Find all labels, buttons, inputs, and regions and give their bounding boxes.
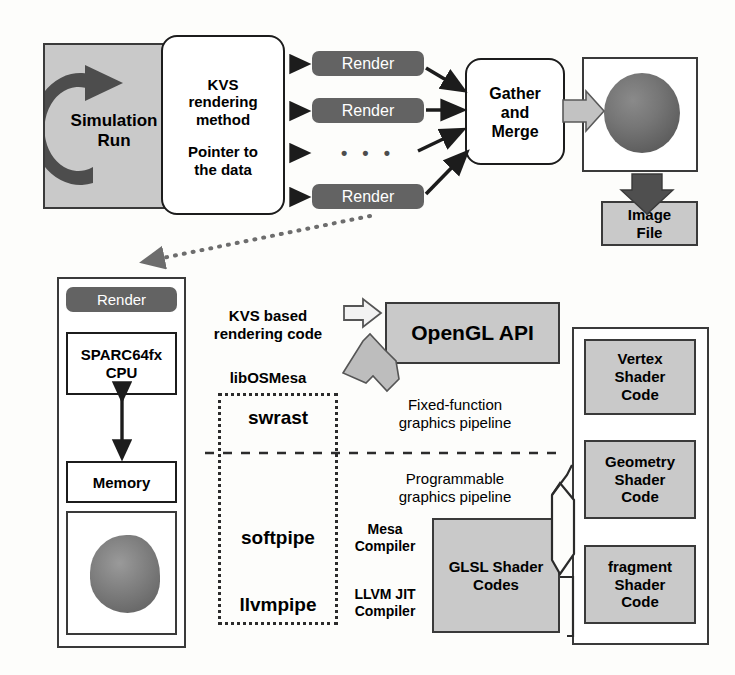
gather-label-line3: Merge [491,123,538,142]
vertex-shader-code-box: Vertex Shader Code [584,339,696,415]
render-nodes-ellipsis: • • • [312,142,424,164]
kvs-label-line4: Pointer to [188,143,258,161]
fixed-pipeline-line2: graphics pipeline [399,414,512,432]
render-node-3: Render [312,184,424,209]
image-file-line1: Image [628,206,671,224]
vertex-shader-line3: Code [621,386,659,404]
geometry-shader-line1: Geometry [605,453,675,471]
prog-pipeline-line2: graphics pipeline [399,488,512,506]
glsl-line2: Codes [473,576,519,594]
llvm-compiler-line2: Compiler [355,603,416,620]
driver-swrast-label: swrast [218,405,338,431]
render-node-1: Render [312,51,424,76]
driver-llvmpipe-label: llvmpipe [218,592,338,618]
node-result-image-frame [66,511,177,635]
simulation-run-box: Simulation Run [43,43,171,209]
gather-label-line2: and [501,104,529,123]
fragment-shader-line1: fragment [608,558,672,576]
mesa-compiler-label: Mesa Compiler [341,518,429,558]
block-arrow-code-to-opengl [344,299,381,327]
llvm-compiler-line1: LLVM JIT [354,586,415,603]
node-render-label: Render [66,287,177,312]
kvs-based-code-label: KVS based rendering code [193,303,343,347]
connector-glsl-funnel-upper [552,465,572,495]
image-file-line2: File [637,224,663,242]
geometry-shader-code-box: Geometry Shader Code [584,440,696,519]
cpu-line1: SPARC64fx [81,346,162,364]
rendered-blob-image [90,535,160,613]
image-file-box: Image File [601,201,698,246]
programmable-pipeline-label: Programmable graphics pipeline [355,466,555,510]
geometry-shader-line3: Code [621,488,659,506]
kvs-label-line2: rendering [188,93,257,111]
render-node-2: Render [312,98,424,123]
fragment-shader-line3: Code [621,593,659,611]
arrow-render3-to-gather [426,153,466,194]
prog-pipeline-line1: Programmable [406,470,504,488]
rendered-sphere-image [604,73,680,153]
mesa-compiler-line1: Mesa [367,521,402,538]
glsl-line1: GLSL Shader [449,558,544,576]
geometry-shader-line2: Shader [615,471,666,489]
memory-box: Memory [66,461,177,503]
kvs-label-line3: method [196,111,250,129]
opengl-api-box: OpenGL API [385,302,560,364]
fixed-function-pipeline-label: Fixed-function graphics pipeline [355,392,555,436]
cpu-line2: CPU [106,364,138,382]
arrow-render1-to-gather [426,68,463,90]
llvm-jit-compiler-label: LLVM JIT Compiler [341,583,429,623]
sparc64fx-cpu-box: SPARC64fx CPU [66,332,177,395]
fragment-shader-line2: Shader [615,576,666,594]
vertex-shader-line2: Shader [615,368,666,386]
glsl-shader-codes-box: GLSL Shader Codes [432,518,560,633]
image-preview-frame [582,57,698,172]
gather-label-line1: Gather [489,85,541,104]
kvs-label-line5: the data [194,161,252,179]
gather-and-merge-box: Gather and Merge [465,58,565,165]
diagram-canvas: Simulation Run KVS rendering method Poin… [0,0,735,675]
mesa-compiler-line2: Compiler [355,538,416,555]
arrow-ellipsis-to-gather [418,130,462,151]
kvs-label-line1: KVS [208,76,239,94]
fragment-shader-code-box: fragment Shader Code [584,545,696,624]
fixed-pipeline-line1: Fixed-function [408,396,502,414]
kvs-code-line2: rendering code [214,325,322,343]
dotted-link-render-to-node [143,216,370,262]
kvs-code-line1: KVS based [229,307,307,325]
simulation-run-label: Simulation Run [59,103,169,159]
driver-softpipe-label: softpipe [218,525,338,551]
kvs-rendering-method-box: KVS rendering method Pointer to the data [161,35,285,215]
libosmesa-label: libOSMesa [193,367,343,389]
vertex-shader-line1: Vertex [617,350,662,368]
